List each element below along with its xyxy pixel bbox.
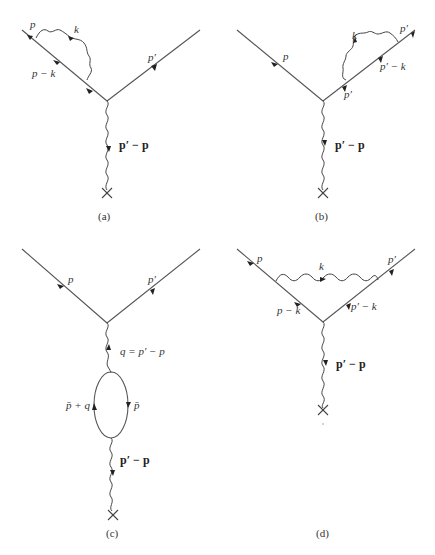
panel-c: p p′ q = p′ − p p̄ + q p̄ p′ − p (c) <box>22 249 200 540</box>
label-pbar-plus-q: p̄ + q <box>65 399 90 411</box>
caption-d: (d) <box>316 527 329 540</box>
arrow-icon <box>389 269 394 276</box>
vertex-correction-photon <box>276 274 378 281</box>
caption-b: (b) <box>315 210 328 223</box>
label-k: k <box>352 29 358 41</box>
arrow-icon <box>151 64 157 71</box>
dot <box>322 423 324 425</box>
label-p: p <box>29 18 36 30</box>
label-q: q = p′ − p <box>120 345 165 357</box>
label-p-prime: p′ <box>387 253 397 265</box>
label-p-prime: p′ <box>147 273 157 285</box>
arrow-icon <box>106 146 111 152</box>
arrow-icon <box>27 35 33 40</box>
label-p-minus-k: p − k <box>31 67 56 79</box>
label-p-prime: p′ <box>147 51 157 63</box>
label-p-prime-end: p′ <box>399 22 409 34</box>
external-photon-line <box>322 101 324 190</box>
panel-d: p k p′ p − k p′ − k p′ − p (d) <box>237 249 415 540</box>
label-p-prime-minus-k: p′ − k <box>379 60 407 72</box>
incoming-electron-line <box>22 30 107 101</box>
label-p: p <box>256 252 263 264</box>
vacuum-polarization-loop <box>94 372 128 438</box>
label-photon-momentum: p′ − p <box>336 357 366 371</box>
arrow-icon <box>150 288 155 295</box>
label-photon-momentum: p′ − p <box>120 453 150 467</box>
label-photon-momentum: p′ − p <box>335 138 365 152</box>
label-p: p <box>67 273 74 285</box>
label-k: k <box>74 23 80 35</box>
label-p-prime-minus-k: p′ − k <box>350 300 378 312</box>
external-photon-line <box>322 322 324 408</box>
feynman-diagrams-figure: p k p − k p′ p′ − p (a) p k p′ p′ − k p′… <box>0 0 435 555</box>
label-k: k <box>319 260 325 272</box>
label-p-minus-k: p − k <box>276 304 301 316</box>
incoming-electron-line <box>237 30 323 101</box>
caption-c: (c) <box>106 527 119 540</box>
panel-a: p k p − k p′ p′ − p (a) <box>22 18 200 223</box>
arrow-icon <box>323 360 328 366</box>
incoming-electron-line <box>22 249 107 323</box>
panel-b: p k p′ p′ − k p′ p′ − p (b) <box>237 22 415 223</box>
arrow-icon <box>68 36 74 41</box>
label-p-prime-start: p′ <box>343 88 353 100</box>
external-photon-line <box>110 438 112 511</box>
label-photon-momentum: p′ − p <box>119 138 149 152</box>
external-photon-line <box>106 101 108 190</box>
label-pbar: p̄ <box>133 399 140 411</box>
arrow-icon <box>247 261 254 266</box>
self-energy-photon-loop <box>343 31 398 80</box>
label-p: p <box>282 50 289 62</box>
caption-a: (a) <box>98 210 111 223</box>
outgoing-electron-line <box>107 249 200 323</box>
